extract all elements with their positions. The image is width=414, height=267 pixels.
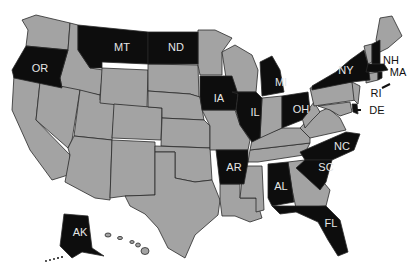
state-wa — [22, 15, 70, 50]
state-ks — [161, 118, 210, 148]
state-co — [112, 104, 162, 140]
label-ak: AK — [73, 226, 88, 238]
ri-leader-line — [382, 84, 390, 88]
label-fl: FL — [325, 217, 338, 229]
state-ri — [378, 72, 382, 80]
label-nc: NC — [334, 140, 350, 152]
state-wy — [100, 68, 148, 108]
label-mt: MT — [114, 41, 130, 53]
label-mi: MI — [275, 76, 287, 88]
label-de: DE — [369, 104, 384, 116]
aleutian-islands — [45, 256, 63, 262]
label-or: OR — [32, 62, 49, 74]
label-ri: RI — [371, 87, 382, 99]
state-nh — [372, 40, 380, 64]
label-nd: ND — [168, 41, 184, 53]
label-al: AL — [274, 180, 287, 192]
us-map: OR MT ND IA IL MI OH NY NH MA RI DE NC S… — [0, 0, 414, 267]
label-oh: OH — [293, 103, 310, 115]
label-ia: IA — [214, 92, 225, 104]
hawaii-islands — [105, 233, 149, 255]
label-ma: MA — [390, 66, 407, 78]
label-nh: NH — [383, 54, 399, 66]
state-az — [65, 136, 112, 200]
label-ny: NY — [338, 64, 354, 76]
state-fl — [272, 206, 348, 256]
label-il: IL — [250, 106, 259, 118]
state-nm — [110, 140, 155, 198]
state-mt — [78, 25, 148, 68]
label-ar: AR — [226, 161, 241, 173]
label-sc: SC — [318, 161, 333, 173]
